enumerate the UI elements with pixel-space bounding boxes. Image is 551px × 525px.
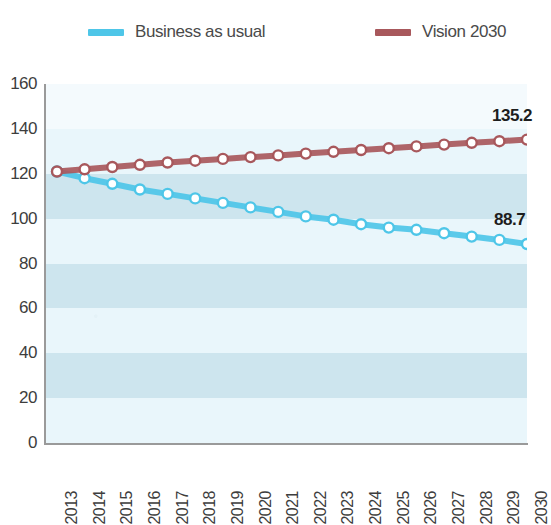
x-axis-tick-label: 2025 — [395, 491, 413, 525]
y-axis-labels: 160140120100806040200 — [0, 0, 45, 494]
x-axis-tick-label: 2024 — [367, 491, 385, 525]
data-point-marker — [246, 152, 256, 162]
data-point-marker — [107, 162, 117, 172]
series-line-vision-2030 — [57, 140, 527, 172]
data-point-marker — [163, 158, 173, 168]
data-point-marker — [384, 143, 394, 153]
data-point-marker — [190, 193, 200, 203]
data-point-marker — [356, 145, 366, 155]
x-axis-tick-label: 2027 — [450, 491, 468, 525]
data-point-marker — [273, 150, 283, 160]
y-axis-tick-label: 20 — [19, 388, 37, 408]
x-axis-tick-label: 2028 — [478, 491, 496, 525]
x-axis-tick-label: 2019 — [229, 491, 247, 525]
data-point-marker — [467, 138, 477, 148]
x-axis-tick-label: 2022 — [312, 491, 330, 525]
y-axis-tick-label: 120 — [10, 164, 37, 184]
data-point-marker — [52, 167, 62, 177]
x-axis-tick-label: 2030 — [533, 491, 551, 525]
data-point-marker — [135, 160, 145, 170]
data-point-marker — [218, 154, 228, 164]
y-axis-tick-label: 60 — [19, 298, 37, 318]
data-point-marker — [411, 141, 421, 151]
x-axis-tick-label: 2015 — [118, 491, 136, 525]
data-point-marker — [218, 198, 228, 208]
data-point-marker — [190, 156, 200, 166]
data-point-marker — [135, 185, 145, 195]
y-axis-tick-label: 140 — [10, 119, 37, 139]
data-point-marker — [163, 189, 173, 199]
data-point-marker — [439, 140, 449, 150]
data-point-marker — [522, 135, 527, 145]
x-axis-tick-label: 2016 — [146, 491, 164, 525]
x-axis-tick-label: 2026 — [422, 491, 440, 525]
series-line-business-as-usual — [57, 172, 527, 245]
series-layer — [45, 84, 527, 443]
data-label-vision-end: 135.2 — [492, 106, 532, 126]
x-axis-tick-label: 2021 — [284, 491, 302, 525]
x-axis-tick-label: 2014 — [91, 491, 109, 525]
data-point-marker — [107, 179, 117, 189]
plot-area — [45, 84, 527, 443]
x-axis-tick-label: 2017 — [174, 491, 192, 525]
y-axis-tick-label: 40 — [19, 343, 37, 363]
data-label-bau-end: 88.7 — [494, 210, 525, 230]
y-axis-tick-label: 100 — [10, 209, 37, 229]
data-point-marker — [522, 239, 527, 249]
data-point-marker — [411, 225, 421, 235]
data-point-marker — [384, 223, 394, 233]
x-axis-tick-label: 2018 — [201, 491, 219, 525]
x-axis-labels: 2013201420152016201720182019202020212022… — [45, 445, 527, 494]
data-point-marker — [301, 149, 311, 159]
data-point-marker — [246, 202, 256, 212]
data-point-marker — [329, 147, 339, 157]
x-axis-tick-label: 2013 — [63, 491, 81, 525]
data-point-marker — [301, 211, 311, 221]
data-point-marker — [494, 235, 504, 245]
y-axis-tick-label: 0 — [28, 433, 37, 453]
x-axis-tick-label: 2020 — [257, 491, 275, 525]
data-point-marker — [439, 228, 449, 238]
x-axis-tick-label: 2029 — [505, 491, 523, 525]
data-point-marker — [467, 232, 477, 242]
data-point-marker — [329, 215, 339, 225]
data-point-marker — [494, 136, 504, 146]
y-axis-tick-label: 160 — [10, 74, 37, 94]
data-point-marker — [80, 164, 90, 174]
data-point-marker — [356, 219, 366, 229]
x-axis-tick-label: 2023 — [339, 491, 357, 525]
y-axis-tick-label: 80 — [19, 254, 37, 274]
data-point-marker — [273, 207, 283, 217]
